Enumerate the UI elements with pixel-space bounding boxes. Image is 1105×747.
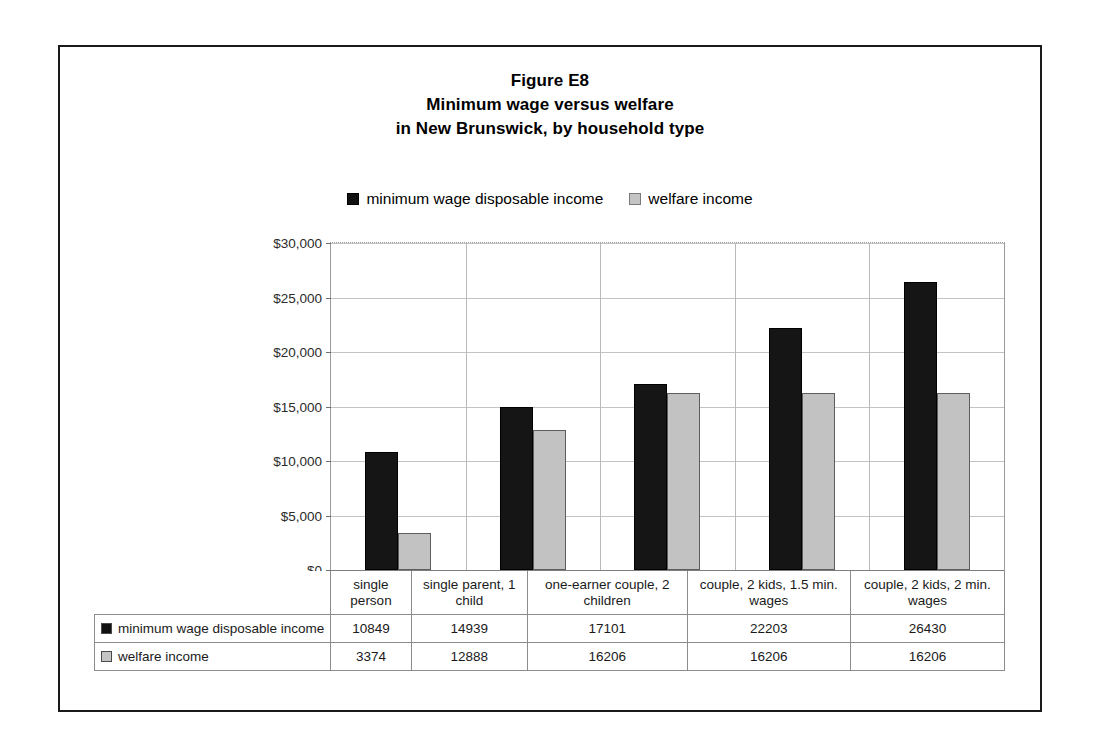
bar-welfare: [802, 393, 835, 570]
bar-minimum-wage: [769, 328, 802, 570]
category-divider: [735, 243, 736, 570]
table-cell-value: 17101: [527, 615, 687, 643]
y-axis-label: $20,000: [273, 345, 322, 360]
figure-title: Figure E8 Minimum wage versus welfare in…: [60, 69, 1040, 141]
black-square-icon: [347, 193, 359, 205]
y-axis-label: $30,000: [273, 236, 322, 251]
table-cell-value: 3374: [331, 643, 411, 671]
gray-square-icon: [101, 651, 112, 662]
title-line-2: Minimum wage versus welfare: [60, 93, 1040, 117]
table-row: minimum wage disposable income 10849 149…: [95, 615, 1005, 643]
bar-group: [466, 243, 601, 570]
title-line-1: Figure E8: [60, 69, 1040, 93]
table-category-header: one-earner couple, 2 children: [527, 571, 687, 615]
table-cell-value: 26430: [850, 615, 1004, 643]
bar-minimum-wage: [365, 452, 398, 570]
y-axis-label: $25,000: [273, 290, 322, 305]
bar-welfare: [398, 533, 431, 570]
table-series-label: welfare income: [118, 649, 209, 664]
table-corner-cell: [95, 571, 331, 615]
legend-entry-minimum-wage: minimum wage disposable income: [347, 190, 603, 208]
table-cell-value: 16206: [527, 643, 687, 671]
bar-group: [600, 243, 735, 570]
title-line-3: in New Brunswick, by household type: [60, 117, 1040, 141]
gray-square-icon: [629, 193, 641, 205]
table-row-categories: single person single parent, 1 child one…: [95, 571, 1005, 615]
table-category-header: single parent, 1 child: [411, 571, 527, 615]
table-category-header: couple, 2 kids, 2 min. wages: [850, 571, 1004, 615]
category-divider: [600, 243, 601, 570]
bar-minimum-wage: [904, 282, 937, 570]
table-series-label: minimum wage disposable income: [118, 621, 324, 636]
table-row: welfare income 3374 12888 16206 16206 16…: [95, 643, 1005, 671]
table-cell-value: 14939: [411, 615, 527, 643]
bars-layer: [331, 243, 1004, 570]
legend-entry-welfare: welfare income: [629, 190, 752, 208]
bar-welfare: [533, 430, 566, 570]
bar-welfare: [937, 393, 970, 570]
table-cell-value: 12888: [411, 643, 527, 671]
legend-label-minimum-wage: minimum wage disposable income: [366, 190, 603, 208]
table-cell-value: 10849: [331, 615, 411, 643]
chart-legend: minimum wage disposable income welfare i…: [60, 190, 1040, 208]
bar-minimum-wage: [634, 384, 667, 570]
bar-group: [735, 243, 870, 570]
bar-minimum-wage: [500, 407, 533, 570]
category-divider: [466, 243, 467, 570]
data-table: single person single parent, 1 child one…: [94, 571, 1005, 671]
y-axis-label: $15,000: [273, 399, 322, 414]
table-cell-value: 16206: [850, 643, 1004, 671]
bar-group: [331, 243, 466, 570]
plot-area: $0$5,000$10,000$15,000$20,000$25,000$30,…: [330, 242, 1005, 571]
black-square-icon: [101, 623, 112, 634]
y-axis-label: $10,000: [273, 454, 322, 469]
table-cell-value: 16206: [687, 643, 850, 671]
figure-frame: Figure E8 Minimum wage versus welfare in…: [58, 45, 1042, 712]
table-cell-value: 22203: [687, 615, 850, 643]
bar-group: [869, 243, 1004, 570]
table-series-header-minimum-wage: minimum wage disposable income: [95, 615, 331, 643]
category-divider: [869, 243, 870, 570]
table-category-header: couple, 2 kids, 1.5 min. wages: [687, 571, 850, 615]
table-category-header: single person: [331, 571, 411, 615]
bar-welfare: [667, 393, 700, 570]
y-axis-label: $5,000: [281, 508, 322, 523]
table-series-header-welfare: welfare income: [95, 643, 331, 671]
legend-label-welfare: welfare income: [648, 190, 752, 208]
